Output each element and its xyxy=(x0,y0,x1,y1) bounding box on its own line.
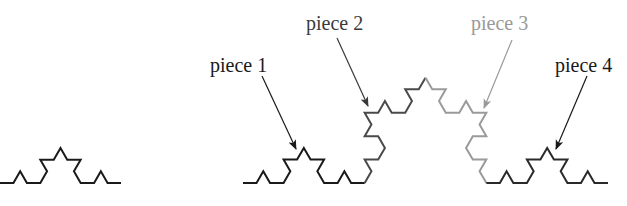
piece-2-curve xyxy=(365,78,426,183)
big-koch-curve xyxy=(243,78,608,183)
piece-3-annotation: piece 3 xyxy=(471,12,528,108)
piece-4-curve xyxy=(486,148,608,183)
piece-1-label: piece 1 xyxy=(210,54,267,77)
piece-2-label: piece 2 xyxy=(306,12,363,35)
piece-4-arrow-icon xyxy=(556,76,587,149)
piece-1-curve xyxy=(243,148,365,183)
piece-3-label: piece 3 xyxy=(471,12,528,35)
piece-2-arrow-icon xyxy=(337,38,368,106)
piece-2-annotation: piece 2 xyxy=(306,12,368,106)
koch-curve-diagram: piece 1 piece 2 piece 3 piece 4 xyxy=(0,0,627,206)
small-koch-curve xyxy=(0,148,121,183)
piece-1-annotation: piece 1 xyxy=(210,54,296,149)
piece-4-label: piece 4 xyxy=(555,54,612,77)
piece-3-arrow-icon xyxy=(484,40,512,108)
piece-3-curve xyxy=(426,78,487,183)
piece-1-arrow-icon xyxy=(262,76,296,149)
piece-4-annotation: piece 4 xyxy=(555,54,612,149)
